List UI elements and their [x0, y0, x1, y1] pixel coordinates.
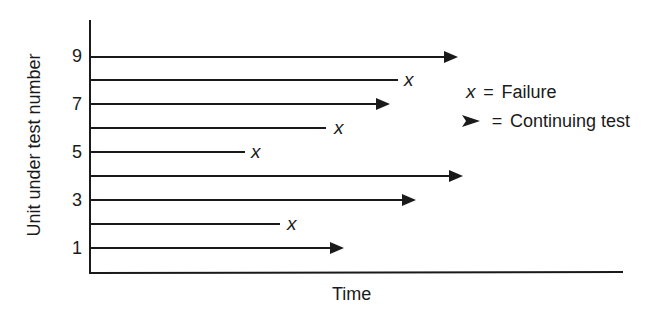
failure-mark-unit-5: x [251, 142, 261, 161]
y-tick-9: 9 [62, 46, 82, 67]
unit-7-line [90, 98, 390, 110]
failure-mark-unit-6: x [334, 118, 344, 137]
continuing-arrow-icon [444, 51, 458, 63]
chart-canvas [0, 0, 667, 311]
failure-mark-unit-8: x [404, 70, 414, 89]
legend-arrow-icon [462, 115, 480, 127]
y-tick-5: 5 [62, 142, 82, 163]
unit-9-line [90, 51, 458, 63]
legend-failure: x=Failure [466, 81, 557, 103]
continuing-arrow-icon [449, 170, 463, 182]
unit-3-line [90, 194, 416, 206]
continuing-arrow-icon [330, 242, 344, 254]
continuing-arrow-icon [376, 98, 390, 110]
failure-mark-unit-2: x [287, 214, 297, 233]
legend-continuing-label: Continuing test [510, 111, 630, 131]
legend-equals: = [484, 111, 510, 132]
failure-x-icon: x [466, 81, 476, 102]
continuing-arrow-icon [402, 194, 416, 206]
legend-equals: = [476, 82, 502, 103]
legend-failure-label: Failure [502, 82, 557, 102]
unit-1-line [90, 242, 344, 254]
legend-continuing: =Continuing test [484, 111, 630, 132]
y-tick-7: 7 [62, 94, 82, 115]
x-axis [89, 272, 623, 273]
y-axis-label: Unit under test number [24, 53, 45, 236]
unit-4-line [90, 170, 463, 182]
y-tick-1: 1 [62, 238, 82, 259]
y-tick-3: 3 [62, 190, 82, 211]
x-axis-label: Time [332, 284, 371, 305]
